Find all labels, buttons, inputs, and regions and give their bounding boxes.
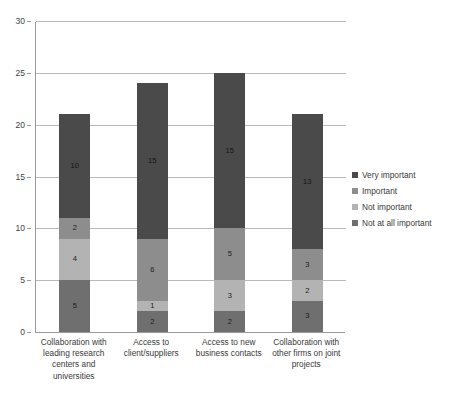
bar-column[interactable]: 21615 — [137, 83, 168, 332]
bar-segment[interactable]: 2 — [59, 218, 90, 239]
y-tick-mark-0 — [27, 332, 31, 333]
bar-segment[interactable]: 5 — [59, 280, 90, 332]
y-tick-label-25: 25 — [0, 69, 25, 78]
bar-segment-value: 3 — [305, 261, 309, 269]
stacked-bar-chart: 051015202530 54210216152351532313 Collab… — [0, 0, 451, 403]
legend-item[interactable]: Very important — [352, 167, 451, 183]
bar-segment[interactable]: 10 — [59, 114, 90, 218]
bar-column[interactable]: 54210 — [59, 114, 90, 332]
legend-label: Important — [362, 187, 397, 196]
y-axis: 051015202530 — [0, 22, 31, 333]
gridline-30 — [36, 21, 346, 22]
bar-segment[interactable]: 3 — [292, 301, 323, 332]
bar-segment[interactable]: 15 — [137, 83, 168, 239]
legend-label: Not at all important — [362, 219, 432, 228]
bar-segment-value: 2 — [305, 287, 309, 295]
y-tick-mark-20 — [27, 125, 31, 126]
legend-item[interactable]: Not important — [352, 199, 451, 215]
x-axis-label-1: Collaboration withleading researchcenter… — [35, 337, 113, 382]
legend-item[interactable]: Not at all important — [352, 215, 451, 231]
bar-segment[interactable]: 1 — [137, 301, 168, 311]
gridline-25 — [36, 73, 346, 74]
bar-segment-value: 5 — [73, 302, 77, 310]
bar-segment-value: 3 — [305, 312, 309, 320]
x-axis-label-3: Access to newbusiness contacts — [190, 337, 268, 359]
legend-swatch-icon — [352, 220, 358, 226]
bar-segment-value: 1 — [150, 302, 154, 310]
y-tick-label-5: 5 — [0, 276, 25, 285]
y-tick-mark-10 — [27, 228, 31, 229]
x-axis-label-4: Collaboration withother firms on jointpr… — [268, 337, 346, 371]
bar-column[interactable]: 32313 — [292, 114, 323, 332]
bar-column[interactable]: 23515 — [214, 73, 245, 332]
bar-segment[interactable]: 2 — [214, 311, 245, 332]
bar-segment[interactable]: 15 — [214, 73, 245, 229]
legend-label: Very important — [362, 171, 416, 180]
chart-legend: Very importantImportantNot importantNot … — [352, 167, 451, 231]
bar-segment-value: 4 — [73, 255, 77, 263]
bar-segment[interactable]: 6 — [137, 239, 168, 301]
bar-segment[interactable]: 3 — [214, 280, 245, 311]
bar-segment[interactable]: 4 — [59, 239, 90, 280]
x-axis-label-2: Access toclient/suppliers — [113, 337, 191, 359]
x-axis-category-labels: Collaboration withleading researchcenter… — [35, 337, 345, 399]
y-tick-mark-30 — [27, 21, 31, 22]
y-tick-label-30: 30 — [0, 17, 25, 26]
bar-segment[interactable]: 2 — [137, 311, 168, 332]
legend-swatch-icon — [352, 188, 358, 194]
legend-swatch-icon — [352, 204, 358, 210]
bar-segment-value: 3 — [228, 292, 232, 300]
bar-segment-value: 15 — [148, 157, 156, 165]
y-tick-label-10: 10 — [0, 224, 25, 233]
y-tick-mark-5 — [27, 280, 31, 281]
y-tick-mark-25 — [27, 73, 31, 74]
legend-label: Not important — [362, 203, 412, 212]
y-tick-label-15: 15 — [0, 173, 25, 182]
bar-segment-value: 2 — [150, 318, 154, 326]
bar-segment[interactable]: 3 — [292, 249, 323, 280]
legend-item[interactable]: Important — [352, 183, 451, 199]
bar-segment-value: 10 — [71, 162, 79, 170]
bar-segment[interactable]: 5 — [214, 228, 245, 280]
bar-segment-value: 6 — [150, 266, 154, 274]
bar-segment-value: 2 — [73, 224, 77, 232]
bar-segment-value: 13 — [303, 178, 311, 186]
y-tick-mark-15 — [27, 177, 31, 178]
plot-area: 54210216152351532313 — [35, 22, 345, 333]
y-tick-label-20: 20 — [0, 121, 25, 130]
bar-segment-value: 15 — [226, 147, 234, 155]
bar-segment-value: 2 — [228, 318, 232, 326]
bar-segment-value: 5 — [228, 250, 232, 258]
bar-segment[interactable]: 13 — [292, 114, 323, 249]
legend-swatch-icon — [352, 172, 358, 178]
y-tick-label-0: 0 — [0, 328, 25, 337]
bar-segment[interactable]: 2 — [292, 280, 323, 301]
